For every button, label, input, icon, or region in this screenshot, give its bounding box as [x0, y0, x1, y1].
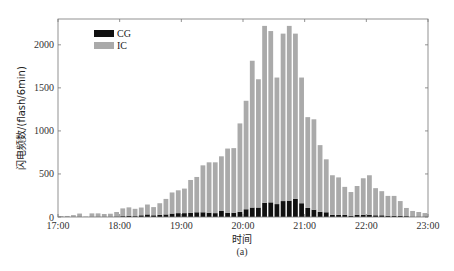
- bar-ic: [207, 162, 212, 212]
- bar-ic: [170, 192, 175, 213]
- bar-cg: [318, 212, 323, 217]
- bar-cg: [250, 208, 255, 217]
- bar-cg: [182, 213, 187, 217]
- bar-ic: [293, 34, 298, 199]
- bar-cg: [293, 199, 298, 217]
- y-tick-label: 500: [39, 168, 54, 179]
- x-tick-label: 23:00: [417, 220, 440, 231]
- bar-ic: [404, 208, 409, 216]
- bar-ic: [256, 79, 261, 207]
- bar-ic: [275, 78, 280, 205]
- x-tick-label: 21:00: [293, 220, 316, 231]
- bar-ic: [102, 214, 107, 217]
- bar-ic: [71, 215, 76, 217]
- bar-ic: [392, 196, 397, 216]
- y-tick-label: 1500: [34, 82, 54, 93]
- bar-ic: [164, 199, 169, 215]
- bar-ic: [324, 159, 329, 212]
- bar-ic: [336, 177, 341, 214]
- legend: CG IC: [94, 28, 131, 51]
- bar-ic: [287, 26, 292, 201]
- bar-cg: [244, 209, 249, 217]
- bar-cg: [225, 213, 230, 217]
- y-tick-label: 1000: [34, 125, 54, 136]
- x-tick-label: 20:00: [232, 220, 255, 231]
- bar-cg: [194, 212, 199, 217]
- bar-ic: [108, 214, 113, 217]
- bar-ic: [194, 177, 199, 212]
- bar-ic: [133, 209, 138, 216]
- bar-ic: [231, 148, 236, 213]
- bar-ic: [225, 149, 230, 213]
- bar-ic: [96, 213, 101, 216]
- bar-cg: [219, 211, 224, 217]
- bar-cg: [299, 203, 304, 217]
- x-axis-title: 时间: [232, 233, 252, 245]
- bar-ic: [361, 178, 366, 215]
- bar-ic: [114, 212, 119, 216]
- bar-ic: [342, 187, 347, 215]
- bar-ic: [330, 175, 335, 215]
- x-tick-label: 22:00: [355, 220, 378, 231]
- x-tick-label: 18:00: [108, 220, 131, 231]
- bar-ic: [145, 205, 150, 215]
- bar-cg: [287, 201, 292, 217]
- bar-ic: [398, 201, 403, 216]
- bar-cg: [238, 212, 243, 217]
- bar-cg: [256, 208, 261, 217]
- bar-ic: [367, 175, 372, 215]
- bar-ic: [213, 162, 218, 213]
- bar-ic: [139, 208, 144, 216]
- y-tick-label: 2000: [34, 39, 54, 50]
- bar-ic: [120, 208, 125, 216]
- bar-ic: [318, 145, 323, 212]
- bar-ic: [305, 117, 310, 208]
- bar-cg: [281, 201, 286, 217]
- legend-swatch-cg: [94, 30, 114, 37]
- bar-ic: [151, 207, 156, 215]
- bar-ic: [379, 191, 384, 215]
- x-tick-label: 19:00: [170, 220, 193, 231]
- bar-cg: [231, 213, 236, 217]
- y-axis-title: 闪电频数/(flash/6min): [15, 66, 27, 170]
- bar-ic: [250, 61, 255, 208]
- bar-ic: [349, 192, 354, 216]
- bar-ic: [90, 213, 95, 216]
- bar-ic: [386, 196, 391, 216]
- x-tick-label: 17:00: [47, 220, 70, 231]
- bar-ic: [201, 165, 206, 212]
- bar-ic: [77, 214, 82, 217]
- chart-subtitle: (a): [236, 246, 247, 258]
- bar-ic: [219, 156, 224, 211]
- bar-ic: [268, 31, 273, 202]
- bar-cg: [275, 204, 280, 217]
- bar-cg: [305, 208, 310, 217]
- bar-ic: [157, 203, 162, 215]
- bar-cg: [170, 214, 175, 217]
- bar-cg: [324, 212, 329, 217]
- bar-ic: [262, 26, 267, 203]
- bar-ic: [416, 212, 421, 217]
- bar-cg: [176, 213, 181, 217]
- bar-ic: [373, 188, 378, 215]
- bar-cg: [262, 203, 267, 217]
- bar-cg: [213, 213, 218, 217]
- bar-ic: [355, 186, 360, 215]
- bar-ic: [238, 123, 243, 211]
- bar-cg: [188, 213, 193, 217]
- legend-label-ic: IC: [117, 40, 127, 51]
- bars-group: [59, 26, 428, 217]
- legend-label-cg: CG: [117, 28, 131, 39]
- bar-cg: [201, 212, 206, 217]
- bar-ic: [423, 213, 428, 217]
- legend-swatch-ic: [94, 42, 114, 49]
- bar-cg: [312, 210, 317, 217]
- bar-ic: [299, 78, 304, 204]
- lightning-frequency-chart: 0500100015002000 17:0018:0019:0020:0021:…: [0, 0, 454, 271]
- bar-cg: [268, 202, 273, 217]
- bar-ic: [312, 119, 317, 209]
- bar-ic: [410, 211, 415, 217]
- bar-cg: [207, 213, 212, 217]
- bar-ic: [182, 189, 187, 214]
- bar-ic: [244, 101, 249, 209]
